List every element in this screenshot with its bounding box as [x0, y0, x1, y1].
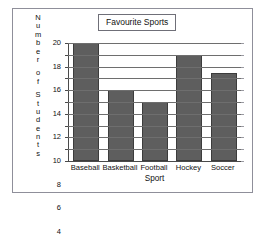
- y-axis-tick-label: 20: [53, 39, 61, 47]
- y-axis-tick-right: [241, 149, 244, 150]
- y-axis-tick: 0: [65, 161, 68, 162]
- x-axis-category-label: Soccer: [206, 163, 240, 173]
- y-axis-tick-right: [241, 43, 244, 44]
- chart-figure: NumberofStudents Favourite Sports 024681…: [0, 0, 266, 207]
- y-axis-title-char: s: [30, 150, 46, 158]
- y-axis-tick-right: [241, 114, 244, 115]
- y-axis-title: NumberofStudents: [30, 14, 46, 158]
- gridline: [68, 55, 241, 56]
- y-axis-tick: 16: [65, 67, 68, 68]
- y-axis-tick-label: 12: [53, 133, 61, 141]
- y-axis-tick: 4: [65, 137, 68, 138]
- gridline: [68, 67, 241, 68]
- gridline: [68, 126, 241, 127]
- y-axis-title-char: r: [30, 56, 46, 64]
- y-axis-tick-right: [241, 102, 244, 103]
- gridline: [68, 78, 241, 79]
- y-axis-tick-right: [241, 67, 244, 68]
- y-axis-tick: 6: [65, 126, 68, 127]
- y-axis-tick-label: 6: [57, 204, 61, 207]
- bar: [176, 55, 202, 161]
- y-axis-tick: 12: [65, 90, 68, 91]
- y-axis-tick-label: 18: [53, 63, 61, 71]
- y-axis-tick-right: [241, 161, 244, 162]
- bar: [211, 73, 237, 162]
- y-axis-tick: 14: [65, 78, 68, 79]
- y-axis-tick: 20: [65, 43, 68, 44]
- y-axis-tick-label: 16: [53, 86, 61, 94]
- y-axis-tick-right: [241, 55, 244, 56]
- y-axis-tick-right: [241, 90, 244, 91]
- x-axis-category-label: Hockey: [171, 163, 205, 173]
- gridline: [68, 114, 241, 115]
- y-axis-tick-label: 14: [53, 110, 61, 118]
- gridline: [68, 43, 241, 44]
- y-axis-tick-right: [241, 78, 244, 79]
- y-axis-tick: 18: [65, 55, 68, 56]
- y-axis-title-char: f: [30, 78, 46, 86]
- y-axis-tick-right: [241, 126, 244, 127]
- y-axis-tick-label: 8: [57, 181, 61, 189]
- y-axis-tick: 2: [65, 149, 68, 150]
- chart-title: Favourite Sports: [98, 14, 176, 31]
- bar: [142, 102, 168, 161]
- x-axis-category-label: Baseball: [68, 163, 102, 173]
- y-axis-tick-label: 10: [53, 157, 61, 165]
- y-axis-tick: 8: [65, 114, 68, 115]
- gridline: [68, 149, 241, 150]
- gridline: [68, 137, 241, 138]
- gridline: [68, 102, 241, 103]
- x-axis-category-label: Basketball: [102, 163, 136, 173]
- x-axis-category-label: Football: [137, 163, 171, 173]
- gridline: [68, 90, 241, 91]
- y-axis-tick-right: [241, 137, 244, 138]
- y-axis-tick: 10: [65, 102, 68, 103]
- x-axis-title: Sport: [68, 174, 241, 184]
- gridline: [68, 161, 241, 162]
- plot-area: 02468101214161820: [68, 43, 241, 161]
